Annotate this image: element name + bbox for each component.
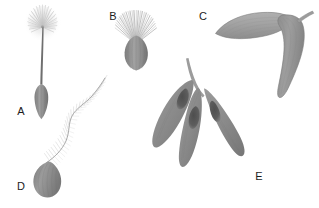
- panel-c-single-winged-samara: [216, 11, 314, 98]
- panel-b-pappus-achene: [115, 10, 156, 70]
- panel-label-c: C: [199, 10, 207, 22]
- panel-d-awn-plume: [45, 75, 108, 160]
- panel-d-seed-body: [33, 161, 61, 197]
- figure-canvas: A B C D E: [0, 0, 319, 208]
- panel-a-plumed-achene: [24, 4, 62, 119]
- panel-e-samara-right: [204, 88, 245, 156]
- panel-label-d: D: [17, 180, 25, 192]
- panel-label-b: B: [109, 10, 117, 22]
- panel-label-a: A: [17, 105, 25, 117]
- panel-c-stalk: [297, 11, 314, 23]
- panel-e-samara-cluster: [152, 58, 244, 167]
- seed-dispersal-figure: A B C D E: [0, 0, 319, 208]
- panel-c-seed-body: [278, 15, 305, 98]
- panel-label-e: E: [255, 170, 263, 182]
- panel-d-awn-plume-lower: [50, 82, 106, 167]
